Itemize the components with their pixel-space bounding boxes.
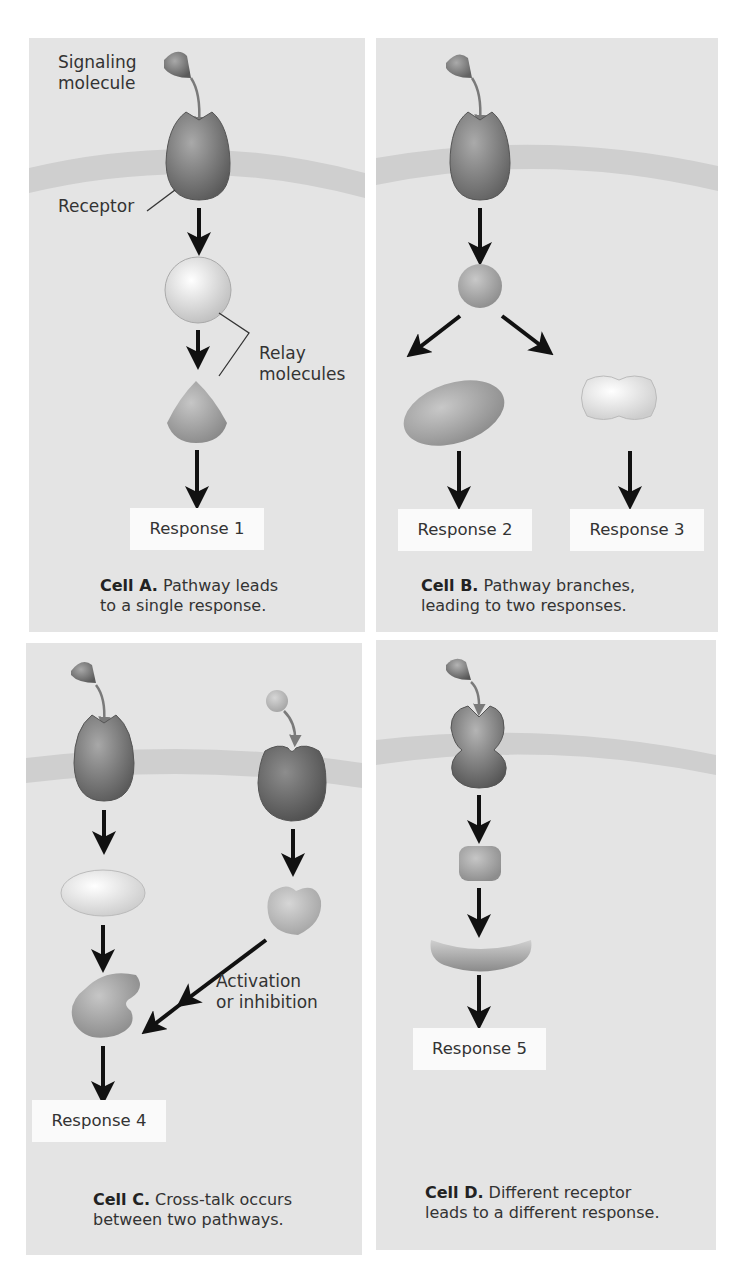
signaling-molecule-icon — [164, 52, 191, 78]
receptor-icon — [74, 715, 134, 801]
caption-line: Cell B. Pathway branches, — [421, 576, 635, 596]
caption-line: leads to a different response. — [425, 1203, 660, 1223]
relay-molecule-ellipse-icon — [61, 870, 145, 916]
label-line: molecule — [58, 73, 137, 94]
caption-bold: Cell A. — [100, 576, 158, 595]
relay-molecule-kidney-icon — [72, 973, 140, 1038]
response-1-box: Response 1 — [130, 508, 264, 550]
cell-a-caption: Cell A. Pathway leads to a single respon… — [100, 576, 278, 616]
receptor-label: Receptor — [58, 196, 134, 217]
caption-line: leading to two responses. — [421, 596, 635, 616]
cell-d-caption: Cell D. Different receptor leads to a di… — [425, 1183, 660, 1223]
caption-line: Cell A. Pathway leads — [100, 576, 278, 596]
caption-line: Cell D. Different receptor — [425, 1183, 660, 1203]
label-line: molecules — [259, 364, 345, 385]
relay-molecule-sphere-icon — [458, 264, 502, 308]
caption-text: Different receptor — [484, 1183, 632, 1202]
relay-molecule-crescent-icon — [431, 940, 532, 972]
relay-molecule-dumbbell-icon — [582, 376, 657, 420]
label-line: Signaling — [58, 52, 137, 73]
relay-molecule-square-icon — [459, 846, 501, 881]
relay-molecules-label: Relay molecules — [259, 343, 345, 385]
caption-bold: Cell D. — [425, 1183, 484, 1202]
panel-cell-a: Signaling molecule Receptor Relay molecu… — [29, 38, 365, 632]
activation-or-inhibition-label: Activation or inhibition — [216, 971, 318, 1013]
cell-c-caption: Cell C. Cross-talk occurs between two pa… — [93, 1190, 292, 1230]
plasma-membrane — [376, 733, 716, 775]
label-line: or inhibition — [216, 992, 318, 1013]
cell-c-diagram — [26, 643, 362, 1255]
cell-b-caption: Cell B. Pathway branches, leading to two… — [421, 576, 635, 616]
caption-line: between two pathways. — [93, 1210, 292, 1230]
response-4-box: Response 4 — [32, 1100, 166, 1142]
response-3-box: Response 3 — [570, 509, 704, 551]
caption-text: Cross-talk occurs — [150, 1190, 292, 1209]
receptor-icon — [166, 112, 230, 200]
signaling-molecule-label: Signaling molecule — [58, 52, 137, 94]
panel-cell-b: Response 2 Response 3 Cell B. Pathway br… — [376, 38, 718, 632]
response-2-box: Response 2 — [398, 509, 532, 551]
receptor-round-icon — [258, 746, 326, 821]
panel-cell-c: Activation or inhibition Response 4 Cell… — [26, 643, 362, 1255]
label-line: Relay — [259, 343, 345, 364]
caption-line: to a single response. — [100, 596, 278, 616]
caption-text: Pathway branches, — [478, 576, 635, 595]
caption-text: Pathway leads — [158, 576, 278, 595]
panel-cell-d: Response 5 Cell D. Different receptor le… — [376, 640, 716, 1250]
relay-molecule-sphere-icon — [165, 257, 231, 323]
plasma-membrane — [376, 145, 718, 191]
relay-molecule-heart-icon — [267, 886, 321, 935]
cell-d-diagram — [376, 640, 716, 1250]
caption-bold: Cell B. — [421, 576, 478, 595]
relay-molecule-ellipse-icon — [395, 368, 512, 457]
signaling-molecule-icon — [446, 659, 471, 680]
label-line: Activation — [216, 971, 318, 992]
signaling-molecule-icon — [71, 662, 96, 683]
receptor-icon — [450, 112, 510, 200]
caption-line: Cell C. Cross-talk occurs — [93, 1190, 292, 1210]
caption-bold: Cell C. — [93, 1190, 150, 1209]
signaling-molecule-icon — [446, 54, 472, 78]
response-5-box: Response 5 — [413, 1028, 546, 1070]
relay-molecule-cone-icon — [167, 381, 227, 443]
signaling-molecule-round-icon — [266, 690, 288, 712]
